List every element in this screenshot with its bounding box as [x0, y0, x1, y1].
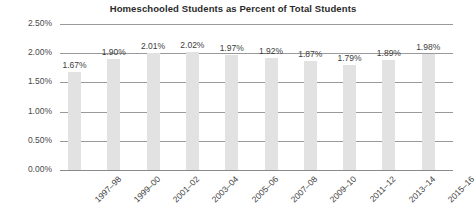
bar[interactable] [265, 58, 278, 170]
x-axis-tick-label: 2015–16 [446, 174, 476, 204]
y-axis-tick-label: 1.00% [8, 106, 52, 116]
x-axis-tick-label: 2011–12 [367, 174, 397, 204]
x-axis-tick-label: 2007–08 [289, 174, 319, 204]
x-axis-tick-label: 2005–06 [249, 174, 279, 204]
bar[interactable] [304, 61, 317, 170]
x-axis-tick-label: 1997–98 [92, 174, 122, 204]
x-axis-tick-label: 2003–04 [210, 174, 240, 204]
bar[interactable] [147, 53, 160, 170]
bar[interactable] [68, 72, 81, 170]
x-axis-tick-label: 1999–00 [131, 174, 161, 204]
bar[interactable] [186, 52, 199, 170]
chart-title: Homeschooled Students as Percent of Tota… [0, 3, 466, 14]
x-axis-tick-label: 2001–02 [171, 174, 201, 204]
bar[interactable] [107, 59, 120, 170]
bar-value-label: 1.98% [405, 42, 451, 52]
y-axis-tick-label: 0.00% [8, 164, 52, 174]
bar[interactable] [382, 60, 395, 170]
y-axis-tick-label: 0.50% [8, 135, 52, 145]
gridline [60, 24, 453, 25]
y-axis-tick-label: 1.50% [8, 76, 52, 86]
bar[interactable] [225, 55, 238, 170]
x-axis-tick-label: 2009–10 [328, 174, 358, 204]
bar[interactable] [422, 54, 435, 170]
bar[interactable] [343, 65, 356, 170]
bar-value-label: 1.67% [52, 60, 98, 70]
y-axis-tick-label: 2.00% [8, 47, 52, 57]
x-axis-tick-label: 2013–14 [407, 174, 437, 204]
gridline [60, 170, 453, 171]
y-axis-tick-label: 2.50% [8, 18, 52, 28]
